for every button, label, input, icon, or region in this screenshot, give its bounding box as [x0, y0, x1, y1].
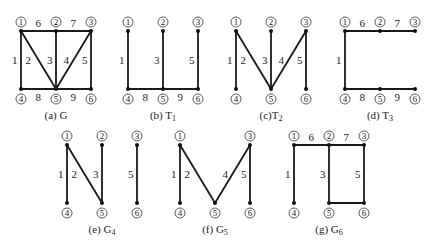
graph-panel-e: 1235123456(e) G4 [58, 131, 142, 237]
node-5 [269, 87, 273, 91]
svg-text:2: 2 [54, 17, 59, 27]
edge-label: 1 [119, 54, 125, 66]
svg-text:4: 4 [234, 94, 239, 104]
edge-label: 3 [47, 54, 53, 66]
svg-text:3: 3 [248, 131, 253, 141]
node-1 [65, 143, 69, 147]
svg-text:6: 6 [248, 208, 253, 218]
node-5 [378, 87, 382, 91]
node-label-2: 2 [375, 17, 385, 27]
svg-text:3: 3 [196, 17, 201, 27]
edge-label: 5 [189, 54, 195, 66]
edge-label: 8 [143, 91, 149, 103]
svg-text:1: 1 [19, 17, 24, 27]
node-1 [343, 29, 347, 33]
node-label-6: 6 [193, 94, 203, 104]
edge-label: 1 [285, 168, 291, 180]
panel-caption: (g) G6 [315, 223, 343, 237]
svg-text:2: 2 [378, 17, 383, 27]
svg-text:6: 6 [135, 208, 140, 218]
edge-label: 1 [227, 54, 233, 66]
node-label-4: 4 [340, 94, 350, 104]
node-label-1: 1 [175, 131, 185, 141]
node-label-6: 6 [132, 208, 142, 218]
node-label-2: 2 [158, 17, 168, 27]
node-label-3: 3 [410, 17, 420, 27]
svg-text:1: 1 [178, 131, 183, 141]
svg-text:3: 3 [304, 17, 309, 27]
node-label-3: 3 [193, 17, 203, 27]
svg-text:6: 6 [362, 208, 367, 218]
node-3 [304, 29, 308, 33]
node-1 [178, 143, 182, 147]
node-label-3: 3 [359, 131, 369, 141]
node-4 [126, 87, 130, 91]
node-label-3: 3 [132, 131, 142, 141]
node-label-5: 5 [266, 94, 276, 104]
graph-panel-a: 123456789123456(a) G [12, 17, 96, 122]
node-3 [248, 143, 252, 147]
svg-text:2: 2 [327, 131, 332, 141]
node-1 [292, 143, 296, 147]
edge-label: 2 [185, 168, 191, 180]
svg-text:2: 2 [100, 131, 105, 141]
node-2 [100, 143, 104, 147]
node-label-4: 4 [289, 208, 299, 218]
edge-label: 5 [82, 54, 88, 66]
node-5 [327, 201, 331, 205]
node-label-1: 1 [62, 131, 72, 141]
node-2 [54, 29, 58, 33]
edge-label: 2 [241, 54, 247, 66]
node-label-2: 2 [51, 17, 61, 27]
svg-text:5: 5 [161, 94, 166, 104]
edge-label: 2 [72, 168, 78, 180]
svg-text:5: 5 [54, 94, 59, 104]
graph-panel-c: 12345123456(c)T2 [227, 17, 311, 123]
edge-label: 7 [71, 17, 77, 29]
node-label-5: 5 [210, 208, 220, 218]
edge-label: 6 [36, 17, 42, 29]
node-2 [378, 29, 382, 33]
node-label-4: 4 [231, 94, 241, 104]
node-label-5: 5 [375, 94, 385, 104]
node-label-1: 1 [231, 17, 241, 27]
svg-text:6: 6 [196, 94, 201, 104]
graph-panel-d: 16789123456(d) T3 [336, 17, 420, 123]
node-label-1: 1 [340, 17, 350, 27]
edge-label: 5 [355, 168, 361, 180]
edge-label: 9 [395, 91, 401, 103]
edge-label: 3 [262, 54, 268, 66]
node-2 [327, 143, 331, 147]
node-label-6: 6 [410, 94, 420, 104]
node-label-3: 3 [245, 131, 255, 141]
svg-text:2: 2 [161, 17, 166, 27]
node-3 [135, 143, 139, 147]
edge-label: 5 [297, 54, 303, 66]
svg-text:4: 4 [126, 94, 131, 104]
node-4 [19, 87, 23, 91]
edge-label: 1 [58, 168, 64, 180]
node-2 [269, 29, 273, 33]
graph-panel-f: 124513456(f) G5 [171, 131, 255, 237]
svg-text:6: 6 [304, 94, 309, 104]
node-label-5: 5 [97, 208, 107, 218]
graph-figure: 123456789123456(a) G13589123456(b) T1123… [0, 0, 434, 251]
node-label-5: 5 [51, 94, 61, 104]
node-label-4: 4 [62, 208, 72, 218]
panel-caption: (f) G5 [202, 223, 228, 237]
svg-text:1: 1 [65, 131, 70, 141]
node-label-6: 6 [301, 94, 311, 104]
svg-text:3: 3 [89, 17, 94, 27]
svg-text:1: 1 [126, 17, 131, 27]
svg-text:5: 5 [269, 94, 274, 104]
node-1 [234, 29, 238, 33]
edge-label: 8 [36, 91, 42, 103]
node-6 [89, 87, 93, 91]
node-3 [196, 29, 200, 33]
node-6 [248, 201, 252, 205]
svg-text:3: 3 [413, 17, 418, 27]
node-label-3: 3 [301, 17, 311, 27]
node-1 [19, 29, 23, 33]
graph-panel-g: 13567123456(g) G6 [285, 131, 369, 237]
svg-text:1: 1 [292, 131, 297, 141]
